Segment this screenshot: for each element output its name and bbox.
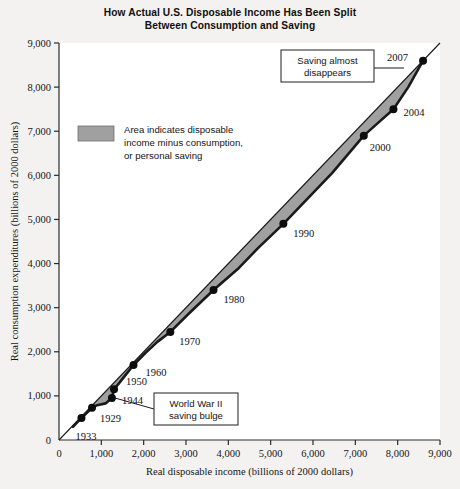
x-tick-label: 7,000 <box>344 448 368 459</box>
data-point-marker <box>77 414 85 422</box>
x-tick-label: 2,000 <box>132 448 156 459</box>
x-tick-label: 9,000 <box>428 448 452 459</box>
data-point-label: 2007 <box>387 52 408 63</box>
data-point-label: 1933 <box>75 431 96 442</box>
x-tick-label: 8,000 <box>386 448 410 459</box>
data-point-marker <box>108 394 116 402</box>
data-point-label: 1990 <box>293 228 314 239</box>
data-point-label: 2004 <box>403 107 425 118</box>
data-point-label: 1950 <box>126 376 147 387</box>
chart-svg: 01,0002,0003,0004,0005,0006,0007,0008,00… <box>0 0 460 489</box>
y-tick-label: 7,000 <box>27 126 51 137</box>
plot-area: 01,0002,0003,0004,0005,0006,0007,0008,00… <box>0 0 460 489</box>
x-tick-label: 6,000 <box>301 448 325 459</box>
legend-line-1: Area indicates disposable <box>124 124 233 135</box>
world-war-ii-saving-bulge-line-2: saving bulge <box>169 410 223 421</box>
y-tick-label: 4,000 <box>27 258 51 269</box>
x-tick-label: 3,000 <box>174 448 198 459</box>
data-point-label: 1929 <box>100 413 121 424</box>
data-point-label: 1960 <box>146 367 167 378</box>
y-tick-label: 0 <box>46 435 51 446</box>
data-point-marker <box>110 385 118 393</box>
x-tick-label: 1,000 <box>90 448 114 459</box>
x-tick-label: 4,000 <box>217 448 241 459</box>
y-tick-label: 9,000 <box>27 38 51 49</box>
world-war-ii-saving-bulge-line-1: World War II <box>170 398 223 409</box>
data-point-marker <box>130 361 138 369</box>
y-tick-label: 5,000 <box>27 214 51 225</box>
y-tick-label: 1,000 <box>27 390 51 401</box>
data-point-marker <box>88 404 96 412</box>
saving-almost-disappears-line-1: Saving almost <box>297 55 358 66</box>
data-point-marker <box>360 132 368 140</box>
data-point-marker <box>389 105 397 113</box>
x-tick-label: 0 <box>56 448 61 459</box>
chart-figure: How Actual U.S. Disposable Income Has Be… <box>0 0 460 489</box>
x-axis-title: Real disposable income (billions of 2000… <box>146 466 354 478</box>
legend-line-3: or personal saving <box>124 150 202 161</box>
data-point-label: 1980 <box>224 294 245 305</box>
y-tick-label: 8,000 <box>27 82 51 93</box>
data-point-marker <box>210 286 218 294</box>
legend-line-2: income minus consumption, <box>124 137 243 148</box>
y-tick-label: 2,000 <box>27 346 51 357</box>
legend-swatch <box>78 126 114 141</box>
data-point-label: 2000 <box>370 142 391 153</box>
data-point-marker <box>419 57 427 65</box>
saving-almost-disappears-line-2: disappears <box>304 67 351 78</box>
data-point-marker <box>166 328 174 336</box>
y-axis-title: Real consumption expenditures (billions … <box>9 121 21 361</box>
y-tick-label: 3,000 <box>27 302 51 313</box>
y-tick-label: 6,000 <box>27 170 51 181</box>
x-tick-label: 5,000 <box>259 448 283 459</box>
data-point-marker <box>279 220 287 228</box>
data-point-label: 1970 <box>179 336 200 347</box>
